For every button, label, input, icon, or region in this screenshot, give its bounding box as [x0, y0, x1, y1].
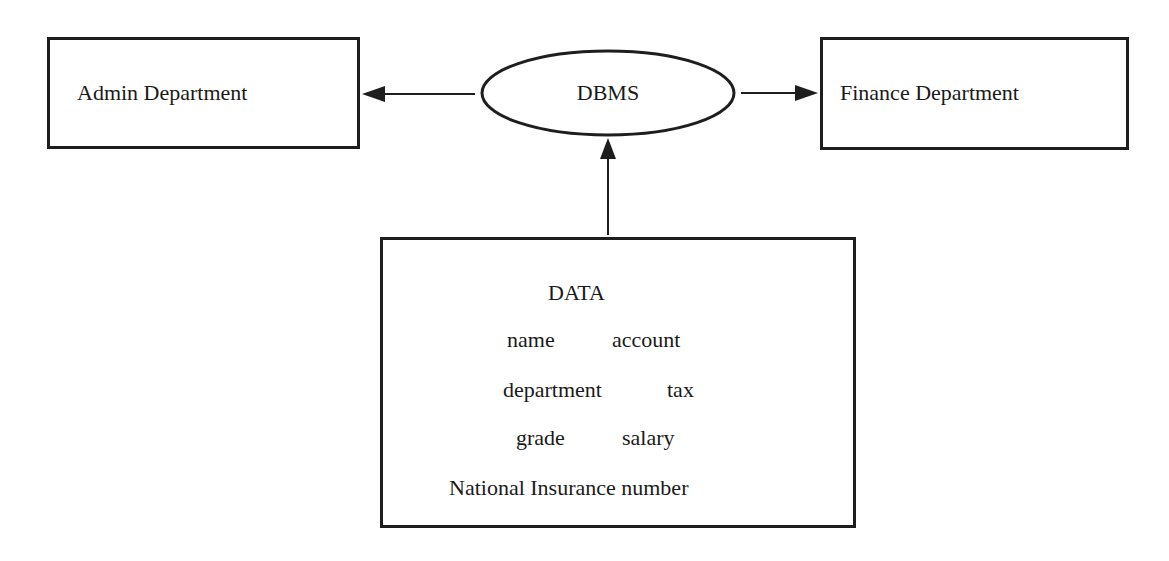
data-field-grade: grade — [516, 425, 565, 451]
arrowhead-right-icon — [795, 85, 818, 101]
arrowhead-left-icon — [362, 86, 385, 102]
arrowhead-up-icon — [600, 138, 616, 159]
arrow-dbms-to-finance — [741, 85, 818, 101]
data-title: DATA — [548, 280, 605, 306]
admin-department-label: Admin Department — [77, 80, 247, 106]
data-field-salary: salary — [622, 425, 675, 451]
data-field-tax: tax — [667, 377, 694, 403]
data-field-national-insurance-number: National Insurance number — [449, 475, 688, 501]
diagram-canvas: Admin Department DBMS Finance Department… — [0, 0, 1169, 561]
data-field-department: department — [503, 377, 602, 403]
finance-department-label: Finance Department — [840, 80, 1019, 106]
dbms-label: DBMS — [548, 80, 668, 106]
arrow-data-to-dbms — [600, 138, 616, 235]
data-field-account: account — [612, 327, 680, 353]
data-field-name: name — [507, 327, 555, 353]
arrow-dbms-to-admin — [362, 86, 475, 102]
